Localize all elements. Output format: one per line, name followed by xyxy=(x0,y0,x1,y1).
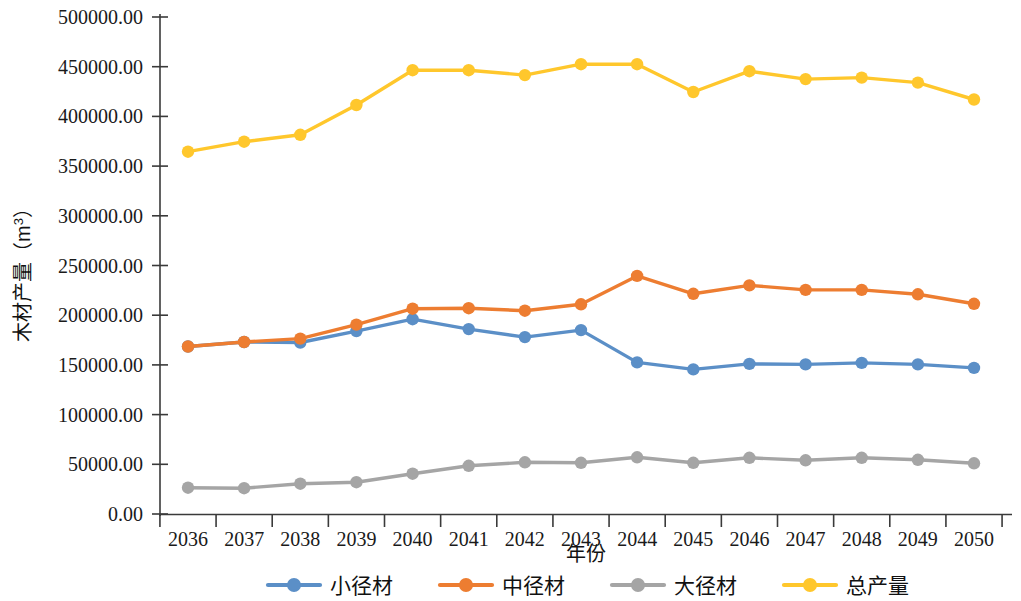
x-tick-label: 2045 xyxy=(673,528,713,550)
data-point xyxy=(912,358,924,370)
data-point xyxy=(631,451,643,463)
y-tick-label: 0.00 xyxy=(108,503,143,525)
y-axis-title-main: 木材产量（m xyxy=(12,225,34,342)
y-tick-label: 100000.00 xyxy=(58,404,143,426)
y-tick-label: 200000.00 xyxy=(58,304,143,326)
x-tick-label: 2036 xyxy=(168,528,208,550)
legend-label: 总产量 xyxy=(846,574,909,597)
chart-legend: 小径材中径材大径材总产量 xyxy=(268,574,909,597)
data-point xyxy=(182,340,194,352)
data-point xyxy=(743,358,755,370)
data-point xyxy=(799,454,811,466)
chart-container: 0.0050000.00100000.00150000.00200000.002… xyxy=(0,0,1021,601)
series-layer xyxy=(182,58,980,494)
series-总产量 xyxy=(182,58,980,158)
data-point xyxy=(799,284,811,296)
data-point xyxy=(968,93,980,105)
data-point xyxy=(519,305,531,317)
data-point xyxy=(743,279,755,291)
data-point xyxy=(799,73,811,85)
data-point xyxy=(856,71,868,83)
x-tick-label: 2046 xyxy=(729,528,769,550)
data-point xyxy=(463,460,475,472)
data-point xyxy=(350,318,362,330)
data-point xyxy=(912,454,924,466)
data-point xyxy=(687,86,699,98)
y-axis-title-tail: ） xyxy=(12,198,34,218)
legend-marker xyxy=(631,578,645,592)
data-point xyxy=(575,298,587,310)
y-tick-label: 500000.00 xyxy=(58,6,143,28)
data-point xyxy=(687,363,699,375)
x-tick-label: 2048 xyxy=(842,528,882,550)
y-tick-label: 400000.00 xyxy=(58,105,143,127)
data-point xyxy=(968,457,980,469)
data-point xyxy=(519,456,531,468)
x-tick-label: 2037 xyxy=(224,528,264,550)
legend-label: 中径材 xyxy=(502,574,565,597)
data-point xyxy=(350,99,362,111)
x-tick-label: 2039 xyxy=(336,528,376,550)
data-point xyxy=(743,65,755,77)
y-tick-label: 150000.00 xyxy=(58,354,143,376)
data-point xyxy=(519,331,531,343)
data-point xyxy=(856,284,868,296)
data-point xyxy=(575,457,587,469)
data-point xyxy=(856,357,868,369)
legend-item-小径材[interactable]: 小径材 xyxy=(268,574,393,597)
data-point xyxy=(912,76,924,88)
x-tick-label: 2047 xyxy=(786,528,826,550)
svg-text:木材产量（m3）: 木材产量（m3） xyxy=(11,198,35,342)
line-chart: 0.0050000.00100000.00150000.00200000.002… xyxy=(0,0,1021,601)
legend-label: 小径材 xyxy=(330,574,393,597)
data-point xyxy=(631,270,643,282)
data-point xyxy=(238,336,250,348)
x-tick-label: 2041 xyxy=(449,528,489,550)
legend-label: 大径材 xyxy=(674,574,737,597)
data-point xyxy=(406,64,418,76)
data-point xyxy=(182,146,194,158)
data-point xyxy=(463,64,475,76)
x-tick-label: 2044 xyxy=(617,528,657,550)
y-tick-label: 50000.00 xyxy=(68,453,143,475)
data-point xyxy=(294,332,306,344)
x-tick-label: 2050 xyxy=(954,528,994,550)
data-point xyxy=(743,452,755,464)
data-point xyxy=(406,303,418,315)
series-大径材 xyxy=(182,451,980,494)
legend-item-中径材[interactable]: 中径材 xyxy=(440,574,565,597)
data-point xyxy=(631,356,643,368)
data-point xyxy=(575,58,587,70)
data-point xyxy=(687,457,699,469)
data-point xyxy=(968,298,980,310)
data-point xyxy=(463,302,475,314)
data-point xyxy=(968,362,980,374)
data-point xyxy=(631,58,643,70)
data-point xyxy=(575,324,587,336)
data-point xyxy=(350,476,362,488)
x-tick-label: 2038 xyxy=(280,528,320,550)
y-tick-label: 450000.00 xyxy=(58,56,143,78)
data-point xyxy=(687,288,699,300)
x-tick-label: 2042 xyxy=(505,528,545,550)
data-point xyxy=(856,452,868,464)
data-point xyxy=(238,482,250,494)
data-point xyxy=(182,482,194,494)
x-axis-tick-marks xyxy=(160,514,1002,527)
x-axis-title: 年份 xyxy=(566,543,606,565)
data-point xyxy=(294,129,306,141)
series-中径材 xyxy=(182,270,980,353)
x-tick-label: 2049 xyxy=(898,528,938,550)
legend-item-大径材[interactable]: 大径材 xyxy=(612,574,737,597)
data-point xyxy=(238,136,250,148)
x-tick-label: 2040 xyxy=(393,528,433,550)
y-tick-label: 250000.00 xyxy=(58,255,143,277)
legend-item-总产量[interactable]: 总产量 xyxy=(784,574,909,597)
legend-marker xyxy=(459,578,473,592)
data-point xyxy=(519,69,531,81)
data-point xyxy=(912,288,924,300)
legend-marker xyxy=(803,578,817,592)
y-axis-title-superscript: 3 xyxy=(11,218,26,225)
y-tick-label: 300000.00 xyxy=(58,205,143,227)
data-point xyxy=(463,323,475,335)
